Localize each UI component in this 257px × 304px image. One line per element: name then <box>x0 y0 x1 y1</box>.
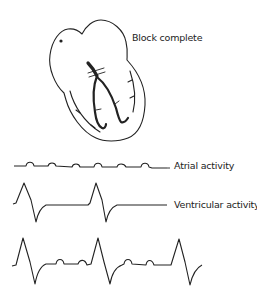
heart-label: Block complete <box>132 32 202 43</box>
branch-tick <box>96 109 101 110</box>
bundle-of-his <box>88 63 97 76</box>
right-inner-wall <box>130 71 135 112</box>
branch-tick <box>115 101 119 104</box>
diagram-canvas <box>0 0 257 304</box>
right-wall-tick <box>128 80 132 82</box>
ventricular-activity-label: Ventricular activity <box>174 199 257 210</box>
right-wall-tick <box>130 96 134 98</box>
right-bundle-branch <box>97 77 128 122</box>
ventricular-activity-trace <box>13 183 167 222</box>
atrial-activity-trace <box>14 162 167 168</box>
combined-ecg-trace <box>12 238 202 285</box>
atrial-activity-label: Atrial activity <box>174 160 234 171</box>
sa-node-dot <box>59 39 62 42</box>
heart-illustration <box>50 20 145 141</box>
